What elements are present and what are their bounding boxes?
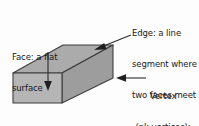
figure-canvas: Face: a flat surface Edge: a line segmen… <box>0 0 199 126</box>
label-vertex-line-2: (pl: vertices): <box>128 122 198 126</box>
label-face: Face: a flat surface <box>12 32 57 114</box>
label-edge-line-1: Edge: a line <box>132 28 197 38</box>
label-edge-line-2: segment where <box>132 59 197 69</box>
label-face-line-2: surface <box>12 83 57 93</box>
label-face-line-1: Face: a flat <box>12 52 57 62</box>
label-vertex-line-1: Vertex <box>128 91 198 101</box>
label-vertex: Vertex (pl: vertices): a corner where th… <box>128 71 198 126</box>
